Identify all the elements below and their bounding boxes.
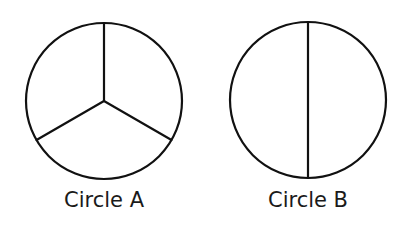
circle-a-radius-lower-left (37, 101, 105, 140)
circle-a (26, 23, 182, 179)
circle-b (230, 22, 386, 178)
circle-b-label: Circle B (228, 186, 388, 214)
circle-a-radius-lower-right (104, 101, 172, 140)
circle-a-label: Circle A (24, 186, 184, 214)
